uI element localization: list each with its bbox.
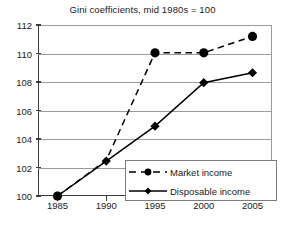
y-tick-mark-106 bbox=[36, 110, 41, 111]
y-tick-label-100: 100 bbox=[2, 191, 32, 202]
y-tick-mark-102 bbox=[36, 167, 41, 168]
x-tick-label-2000: 2000 bbox=[193, 200, 214, 211]
legend-item-disposable-income: Disposable income bbox=[126, 181, 276, 201]
gridline-y-108 bbox=[38, 82, 272, 83]
y-tick-mark-100 bbox=[36, 195, 41, 196]
legend-label-market-income: Market income bbox=[170, 167, 232, 178]
chart-legend: Market income Disposable income bbox=[125, 160, 277, 201]
y-tick-mark-104 bbox=[36, 138, 41, 139]
y-tick-label-110: 110 bbox=[2, 48, 32, 59]
x-tick-mark-1990 bbox=[106, 196, 107, 201]
legend-label-disposable-income: Disposable income bbox=[170, 186, 250, 197]
legend-item-market-income: Market income bbox=[126, 162, 276, 182]
x-tick-mark-1985 bbox=[57, 196, 58, 201]
chart-title: Gini coefficients, mid 1980s = 100 bbox=[0, 4, 285, 15]
y-tick-mark-110 bbox=[36, 53, 41, 54]
legend-sample-solid-diamond bbox=[126, 183, 170, 199]
x-tick-label-2005: 2005 bbox=[242, 200, 263, 211]
x-tick-label-1985: 1985 bbox=[47, 200, 68, 211]
y-tick-label-102: 102 bbox=[2, 162, 32, 173]
gridline-y-110 bbox=[38, 54, 272, 55]
y-tick-label-112: 112 bbox=[2, 20, 32, 31]
y-tick-label-106: 106 bbox=[2, 105, 32, 116]
gridline-y-104 bbox=[38, 139, 272, 140]
gini-coefficients-line-chart: Gini coefficients, mid 1980s = 100 10010… bbox=[0, 0, 285, 232]
legend-sample-dashed-circle bbox=[126, 164, 170, 180]
y-tick-label-108: 108 bbox=[2, 77, 32, 88]
x-tick-label-1995: 1995 bbox=[144, 200, 165, 211]
y-tick-mark-112 bbox=[36, 24, 41, 25]
y-tick-mark-108 bbox=[36, 81, 41, 82]
gridline-y-106 bbox=[38, 111, 272, 112]
x-tick-label-1990: 1990 bbox=[96, 200, 117, 211]
y-tick-label-104: 104 bbox=[2, 134, 32, 145]
